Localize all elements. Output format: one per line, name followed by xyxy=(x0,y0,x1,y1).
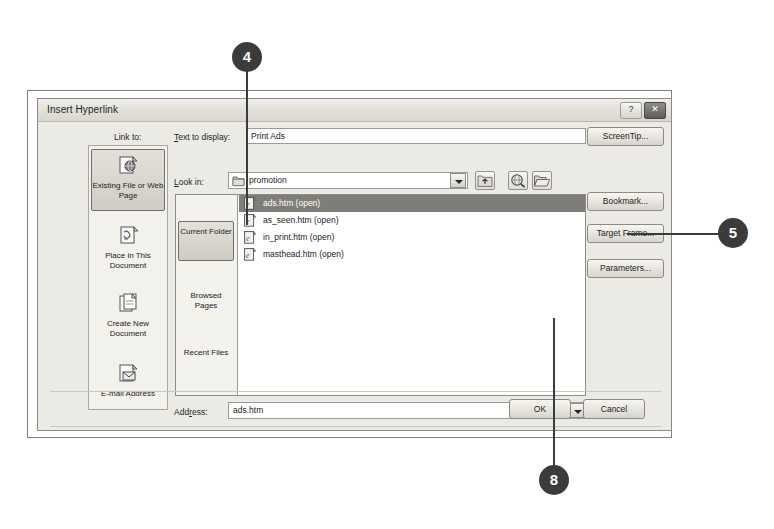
callout-leader-line xyxy=(627,233,720,235)
places-item-current-folder[interactable]: Current Folder xyxy=(178,221,234,261)
bookmark-button-label: Bookmark... xyxy=(603,196,648,206)
file-list-item[interactable]: e as_seen.htm (open) xyxy=(239,212,585,229)
ok-button-label: OK xyxy=(534,404,546,414)
html-page-icon: e xyxy=(244,248,256,267)
place-in-document-icon xyxy=(91,225,165,249)
sidebar-item-label: Place in This Document xyxy=(91,251,165,270)
link-to-panel: Existing File or Web Page Place in This … xyxy=(88,145,168,410)
cancel-button[interactable]: Cancel xyxy=(583,399,645,419)
places-bar: Current Folder Browsed Pages Recent File… xyxy=(176,195,238,395)
chevron-down-icon xyxy=(455,180,463,184)
callout-5: 5 xyxy=(718,218,748,248)
sidebar-item-place-in-this-document[interactable]: Place in This Document xyxy=(91,220,165,278)
file-name: as_seen.htm (open) xyxy=(263,215,339,225)
file-list[interactable]: e ads.htm (open) e as_seen.htm (open) xyxy=(239,195,585,395)
sidebar-item-existing-file-web-page[interactable]: Existing File or Web Page xyxy=(91,149,165,211)
file-list-item[interactable]: e ads.htm (open) xyxy=(239,195,585,212)
help-glyph: ? xyxy=(628,104,633,114)
chevron-down-icon xyxy=(574,410,582,414)
help-icon[interactable]: ? xyxy=(620,102,642,119)
look-in-combobox[interactable]: promotion xyxy=(228,172,468,189)
close-icon[interactable]: ✕ xyxy=(644,102,666,119)
browse-panel: Current Folder Browsed Pages Recent File… xyxy=(175,194,586,396)
dialog-titlebar: Insert Hyperlink ? ✕ xyxy=(38,99,671,122)
bookmark-button[interactable]: Bookmark... xyxy=(587,192,664,211)
file-list-item[interactable]: e masthead.htm (open) xyxy=(239,246,585,263)
link-to-label: Link to: xyxy=(114,132,141,142)
look-in-label: Look in: xyxy=(174,177,204,187)
parameters-button-label: Parameters... xyxy=(600,263,651,273)
places-item-recent-files[interactable]: Recent Files xyxy=(178,343,234,381)
callout-8: 8 xyxy=(539,465,569,495)
file-name: ads.htm (open) xyxy=(263,198,320,208)
divider xyxy=(50,391,661,392)
cancel-button-label: Cancel xyxy=(601,404,627,414)
dialog-title: Insert Hyperlink xyxy=(47,104,118,115)
browse-for-file-button[interactable] xyxy=(532,171,552,190)
browse-the-web-button[interactable] xyxy=(508,171,528,190)
address-value: ads.htm xyxy=(233,405,263,415)
close-glyph: ✕ xyxy=(651,104,659,114)
callout-4: 4 xyxy=(232,42,262,72)
parameters-button[interactable]: Parameters... xyxy=(587,259,664,278)
up-one-folder-button[interactable] xyxy=(475,171,495,190)
text-to-display-value: Print Ads xyxy=(251,131,285,141)
look-in-value: promotion xyxy=(249,175,287,185)
text-to-display-label-rest: ext to display: xyxy=(178,132,230,142)
file-name: masthead.htm (open) xyxy=(263,249,344,259)
sidebar-item-create-new-document[interactable]: Create New Document xyxy=(91,288,165,346)
places-item-label: Current Folder xyxy=(180,227,232,236)
screentip-button-label: ScreenTip... xyxy=(603,131,649,141)
sidebar-item-email-address[interactable]: E-mail Address xyxy=(91,358,165,406)
file-name: in_print.htm (open) xyxy=(263,232,334,242)
file-list-item[interactable]: e in_print.htm (open) xyxy=(239,229,585,246)
email-address-icon xyxy=(91,363,165,387)
create-new-document-icon xyxy=(91,293,165,317)
sidebar-item-label: Create New Document xyxy=(91,319,165,338)
places-item-label: Browsed Pages xyxy=(190,291,221,310)
screentip-button[interactable]: ScreenTip... xyxy=(587,127,664,146)
insert-hyperlink-dialog: Insert Hyperlink ? ✕ Link to: xyxy=(37,98,672,431)
address-label: Address: xyxy=(174,407,208,417)
screenshot-root: Insert Hyperlink ? ✕ Link to: xyxy=(0,0,774,529)
svg-text:e: e xyxy=(246,251,250,260)
sidebar-item-label: Existing File or Web Page xyxy=(92,181,164,200)
places-item-label: Recent Files xyxy=(184,348,228,357)
text-to-display-input[interactable]: Print Ads xyxy=(246,128,586,144)
callout-leader-line xyxy=(246,70,248,225)
ok-button[interactable]: OK xyxy=(509,399,571,419)
existing-file-web-page-icon xyxy=(92,155,164,179)
text-to-display-label: Text to display: xyxy=(174,132,230,142)
svg-text:e: e xyxy=(246,234,250,243)
divider xyxy=(50,426,661,427)
look-in-dropdown-button[interactable] xyxy=(450,173,466,188)
places-item-browsed-pages[interactable]: Browsed Pages xyxy=(178,286,234,324)
callout-leader-line xyxy=(553,318,555,468)
folder-icon xyxy=(232,175,245,189)
